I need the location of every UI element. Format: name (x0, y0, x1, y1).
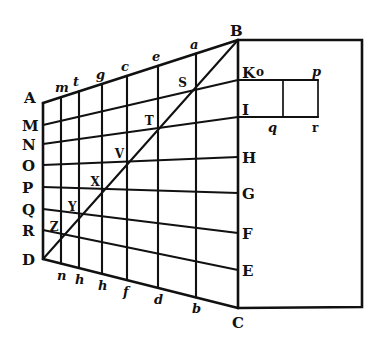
grid-horizontal-line (43, 187, 238, 193)
top-label-m: m (55, 80, 69, 95)
grid-horizontal-line (43, 230, 238, 270)
top-label-a: a (190, 37, 198, 52)
top-label-t: t (73, 74, 79, 89)
bottom-label-h: h (75, 272, 84, 287)
bottom-label-f: f (122, 284, 131, 299)
left-label-o: O (22, 157, 35, 175)
top-label-e: e (152, 49, 160, 64)
grid-horizontal-line (43, 117, 238, 144)
small-box-label-r: r (312, 121, 319, 135)
small-box-label-o: o (256, 65, 264, 79)
right-label-h: H (242, 149, 256, 167)
diagonal-label-z: Z (50, 220, 59, 234)
diagonal-label-y: Y (67, 200, 77, 214)
right-label-g: G (242, 185, 255, 203)
bottom-label-b: b (192, 301, 201, 316)
left-label-m: M (22, 117, 39, 135)
bottom-label-h: h (98, 278, 107, 293)
left-label-a: A (23, 89, 36, 107)
left-label-n: N (22, 136, 36, 154)
right-label-k: K (242, 64, 256, 82)
corner-label-b: B (230, 22, 243, 40)
diagram-labels: AMNOPQRDBKIHGFECmtgceanhhfdbZYXVTSopqr (22, 22, 321, 332)
perspective-diagram: AMNOPQRDBKIHGFECmtgceanhhfdbZYXVTSopqr (0, 0, 385, 344)
bottom-label-n: n (57, 268, 66, 283)
left-label-r: R (22, 222, 35, 240)
right-label-f: F (242, 225, 253, 243)
bottom-label-d: d (154, 292, 163, 307)
top-label-c: c (121, 59, 129, 74)
diagonal-label-s: S (178, 76, 187, 90)
diagonal-label-t: T (145, 114, 154, 128)
diagonal-label-x: X (90, 175, 100, 189)
small-box-label-q: q (268, 120, 277, 135)
left-label-d: D (22, 251, 35, 269)
left-label-p: P (22, 179, 33, 197)
small-box-label-p: p (312, 64, 321, 79)
top-label-g: g (96, 67, 105, 82)
right-label-e: E (242, 262, 253, 280)
diagonal-label-v: V (114, 147, 125, 161)
grid-horizontal-line (43, 157, 238, 165)
corner-label-c: C (232, 314, 244, 332)
right-label-i: I (242, 101, 249, 119)
grid-horizontal-line (43, 259, 238, 308)
left-label-q: Q (22, 201, 35, 219)
